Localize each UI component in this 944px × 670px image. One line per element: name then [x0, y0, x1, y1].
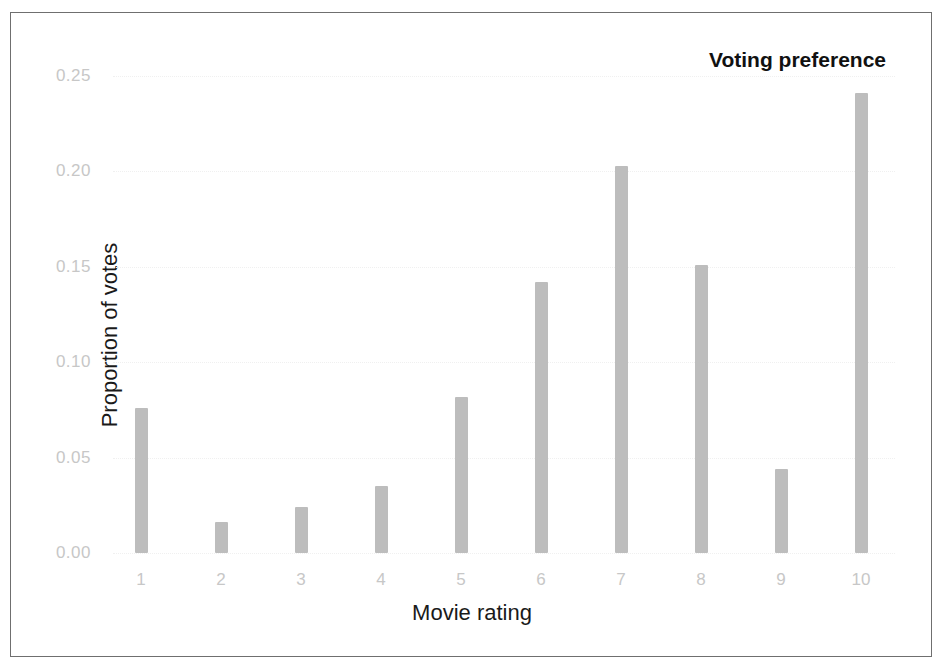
- y-tick-label: 0.25: [39, 67, 91, 84]
- bar: [775, 469, 788, 553]
- x-tick-label: 1: [101, 571, 181, 588]
- x-tick-label: 3: [261, 571, 341, 588]
- x-tick-label: 4: [341, 571, 421, 588]
- x-tick-label: 10: [821, 571, 901, 588]
- x-tick-label: 2: [181, 571, 261, 588]
- x-tick-label: 6: [501, 571, 581, 588]
- x-tick-label: 5: [421, 571, 501, 588]
- bar: [215, 522, 228, 553]
- bar: [135, 408, 148, 553]
- plot-area: [101, 40, 901, 553]
- y-tick-label: 0.10: [39, 353, 91, 370]
- chart-figure: Voting preference Proportion of votes Mo…: [0, 0, 944, 670]
- bar: [855, 93, 868, 553]
- bar-series: [101, 40, 901, 553]
- y-tick-label: 0.20: [39, 162, 91, 179]
- gridline: [113, 553, 895, 555]
- x-axis-title: Movie rating: [0, 600, 944, 626]
- x-tick-label: 9: [741, 571, 821, 588]
- x-tick-label: 8: [661, 571, 741, 588]
- bar: [695, 265, 708, 553]
- x-tick-label: 7: [581, 571, 661, 588]
- bar: [295, 507, 308, 553]
- y-tick-label: 0.00: [39, 544, 91, 561]
- bar: [615, 166, 628, 553]
- bar: [375, 486, 388, 553]
- bar: [455, 397, 468, 553]
- y-tick-label: 0.05: [39, 449, 91, 466]
- bar: [535, 282, 548, 553]
- y-tick-label: 0.15: [39, 258, 91, 275]
